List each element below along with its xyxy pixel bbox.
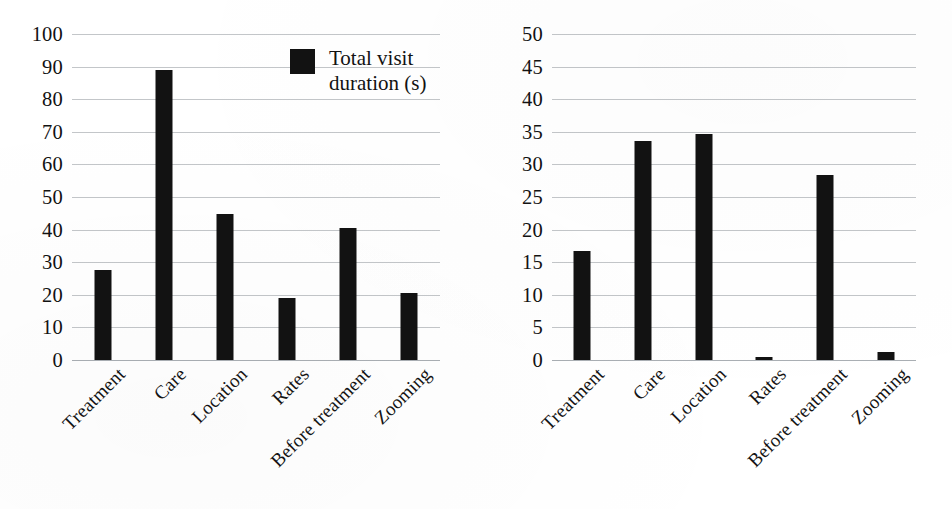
bar <box>340 228 357 360</box>
bar <box>401 293 418 360</box>
y-axis-tick-label: 5 <box>533 317 552 338</box>
gridline <box>72 360 440 361</box>
y-axis-tick-label: 20 <box>42 285 72 306</box>
charts-container: 0102030405060708090100 TreatmentCareLoca… <box>0 0 952 509</box>
y-axis-tick-label: 100 <box>32 24 72 45</box>
y-axis-tick-label: 50 <box>42 187 72 208</box>
y-axis-tick-label: 40 <box>522 89 552 110</box>
y-axis-tick-label: 20 <box>522 219 552 240</box>
bar <box>756 357 773 360</box>
x-axis-tick-label: Location <box>188 364 251 427</box>
y-axis-tick-label: 45 <box>522 56 552 77</box>
y-axis-tick-label: 40 <box>42 219 72 240</box>
figure-root: { "figure": { "background": "#ffffff", "… <box>0 0 952 509</box>
y-axis-tick-label: 80 <box>42 89 72 110</box>
x-axis-tick-label: Rates <box>746 364 791 409</box>
y-axis-tick-label: 30 <box>522 154 552 175</box>
bar <box>574 251 591 360</box>
bars-right <box>552 34 916 360</box>
y-axis-tick-label: 0 <box>533 350 552 371</box>
chart-number-of-errors: 05101520253035404550 TreatmentCareLocati… <box>476 0 952 509</box>
x-axis-tick-label: Care <box>150 364 190 404</box>
y-axis-tick-label: 60 <box>42 154 72 175</box>
y-axis-tick-label: 0 <box>53 350 72 371</box>
chart-total-visit-duration: 0102030405060708090100 TreatmentCareLoca… <box>0 0 476 509</box>
bar <box>94 270 111 360</box>
x-axis-tick-label: Zooming <box>847 364 911 428</box>
x-axis-tick-label: Rates <box>268 364 313 409</box>
bar <box>217 214 234 360</box>
y-axis-tick-label: 25 <box>522 187 552 208</box>
x-axis-tick-label: Care <box>629 364 669 404</box>
y-axis-tick-label: 70 <box>42 122 72 143</box>
y-axis-tick-label: 50 <box>522 24 552 45</box>
x-axis-tick-label: Treatment <box>538 364 608 434</box>
bar <box>817 175 834 360</box>
bar <box>278 298 295 360</box>
plot-area-right: 05101520253035404550 <box>552 34 916 360</box>
x-axis-labels-left: TreatmentCareLocationRatesBefore treatme… <box>72 364 440 504</box>
y-axis-tick-label: 35 <box>522 122 552 143</box>
y-axis-tick-label: 15 <box>522 252 552 273</box>
y-axis-tick-label: 30 <box>42 252 72 273</box>
bar <box>635 141 652 360</box>
bar <box>695 134 712 360</box>
x-axis-labels-right: TreatmentCareLocationRatesBefore treatme… <box>552 364 916 504</box>
y-axis-tick-label: 90 <box>42 56 72 77</box>
y-axis-tick-label: 10 <box>522 285 552 306</box>
x-axis-tick-label: Location <box>667 364 730 427</box>
y-axis-tick-label: 10 <box>42 317 72 338</box>
bar <box>877 352 894 360</box>
legend-swatch-icon <box>290 49 315 74</box>
legend-left: Total visit duration (s) <box>290 46 426 96</box>
gridline <box>552 360 916 361</box>
legend-label-left: Total visit duration (s) <box>329 46 426 96</box>
x-axis-tick-label: Zooming <box>371 364 435 428</box>
bar <box>156 70 173 360</box>
x-axis-tick-label: Treatment <box>59 364 129 434</box>
